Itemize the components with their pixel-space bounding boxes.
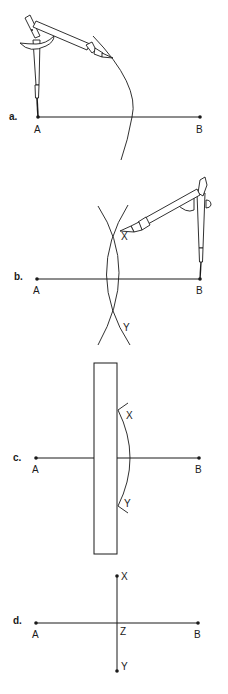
- label-a: A: [33, 285, 40, 296]
- label-b: B: [196, 124, 203, 135]
- arc-from-a: [98, 206, 119, 345]
- label-y: Y: [123, 322, 130, 333]
- label-x: X: [121, 231, 128, 242]
- arc-mark-x: [118, 403, 128, 410]
- compass-icon: [120, 177, 211, 279]
- label-y: Y: [121, 661, 128, 672]
- ruler-icon: [94, 363, 117, 554]
- step-a-label: a.: [9, 111, 18, 122]
- label-x: X: [121, 571, 128, 582]
- label-y: Y: [124, 498, 131, 509]
- step-b: b. A B X Y: [14, 177, 211, 345]
- point-b: [197, 456, 201, 460]
- label-a: A: [32, 629, 39, 640]
- point-b: [198, 115, 202, 119]
- step-b-label: b.: [14, 271, 23, 282]
- point-a: [35, 277, 39, 281]
- point-a: [34, 621, 38, 625]
- step-a: a. A B: [9, 15, 203, 160]
- label-x: X: [126, 410, 133, 421]
- label-a: A: [34, 124, 41, 135]
- step-c-label: c.: [13, 452, 22, 463]
- point-y: [115, 669, 119, 673]
- label-a: A: [32, 464, 39, 475]
- step-c: c. A B X Y: [13, 363, 202, 554]
- label-b: B: [194, 629, 201, 640]
- point-x: [115, 574, 119, 578]
- label-b: B: [195, 464, 202, 475]
- compass-icon: [20, 15, 113, 117]
- label-z: Z: [120, 626, 126, 637]
- perpendicular-bisector-diagram: a. A B b. A: [0, 0, 228, 694]
- point-a: [34, 456, 38, 460]
- step-d-label: d.: [13, 615, 22, 626]
- label-b: B: [196, 285, 203, 296]
- point-b: [196, 621, 200, 625]
- step-d: d. A B X Y Z: [13, 571, 201, 673]
